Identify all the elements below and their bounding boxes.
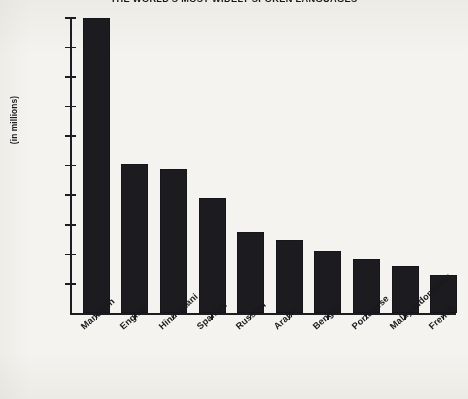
chart-title: THE WORLD'S MOST WIDELY SPOKEN LANGUAGES (0, 0, 468, 4)
y-tick-mark (65, 17, 76, 19)
y-tick-mark (65, 194, 76, 196)
y-tick-mark (65, 224, 76, 226)
y-tick-mark (65, 135, 76, 137)
plot-area: 1002003004005006007008009001,000 (70, 18, 456, 315)
bar (121, 164, 148, 313)
bar-chart-figure: THE WORLD'S MOST WIDELY SPOKEN LANGUAGES… (0, 0, 468, 399)
y-axis-label: (in millions) (9, 80, 19, 160)
bar (83, 18, 110, 313)
y-tick-mark (65, 47, 76, 49)
bar (160, 169, 187, 314)
y-tick-mark (65, 106, 76, 108)
y-tick-mark (65, 254, 76, 256)
y-tick-mark (65, 283, 76, 285)
bar (276, 240, 303, 313)
y-tick-mark (65, 76, 76, 78)
x-axis-labels: MandarinEnglishHindustaniSpanishRussianA… (70, 315, 456, 399)
y-axis-spine (70, 18, 72, 315)
y-tick-mark (65, 165, 76, 167)
bar (199, 198, 226, 313)
